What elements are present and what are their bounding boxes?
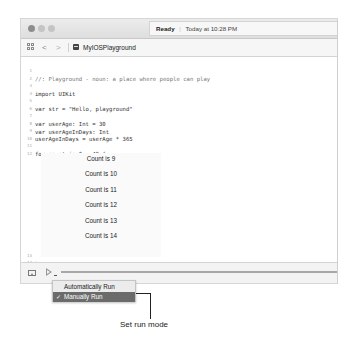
console-output-line: Count is 13 [41, 216, 161, 225]
zoom-window-button[interactable] [48, 25, 55, 32]
menu-item-label: Manually Run [64, 293, 103, 300]
close-window-button[interactable] [28, 25, 35, 32]
related-items-grid-icon[interactable] [27, 43, 35, 51]
toolbar-divider [68, 43, 69, 52]
show-debug-area-icon[interactable] [28, 270, 36, 276]
callout-label: Set run mode [120, 320, 168, 330]
checkmark-icon: ✓ [56, 292, 64, 302]
code-line: 14 [21, 251, 41, 259]
code-text: //: Playground - noun: a place where peo… [35, 75, 210, 83]
console-output-line: Count is 14 [41, 231, 161, 240]
code-editor[interactable]: 1 //: Playground - noun: a place where p… [21, 57, 337, 263]
code-text: var str = "Hello, playground" [35, 105, 133, 113]
back-chevron-icon[interactable]: < [42, 42, 47, 53]
status-timestamp: Today at 10:28 PM [186, 25, 238, 32]
console-output-line: Count is 11 [41, 185, 161, 194]
console-output-line: Count is 12 [41, 200, 161, 209]
breadcrumb-document-title[interactable]: MyIOSPlayground [83, 42, 136, 53]
inline-result-view: Count is 9 Count is 10 Count is 11 Count… [41, 153, 161, 257]
code-line: 12 print("Count is \(count)") [21, 142, 41, 150]
code-text: userAgeInDays = userAge * 365 [35, 135, 133, 143]
forward-chevron-icon[interactable]: > [56, 42, 61, 53]
run-mode-menu: Automatically Run ✓Manually Run [52, 280, 136, 302]
callout-leader-line [150, 293, 151, 319]
console-output-line: Count is 10 [41, 169, 161, 178]
playground-document-icon [73, 44, 79, 50]
minimize-window-button[interactable] [38, 25, 45, 32]
jump-bar: < > MyIOSPlayground [21, 39, 337, 57]
playground-window: Ready | Today at 10:28 PM < > MyIOSPlayg… [20, 18, 338, 284]
menu-item-manually-run[interactable]: ✓Manually Run [53, 292, 135, 302]
callout-leader-line [136, 293, 151, 294]
run-play-icon[interactable] [46, 268, 52, 276]
line-number: 12 [21, 150, 32, 158]
status-separator: | [179, 25, 181, 32]
status-state: Ready [156, 25, 175, 32]
title-bar: Ready | Today at 10:28 PM [21, 19, 337, 39]
execution-progress-track [61, 271, 337, 273]
menu-item-automatically-run[interactable]: Automatically Run [53, 282, 135, 292]
console-output-line: Count is 9 [41, 154, 161, 163]
activity-status-field: Ready | Today at 10:28 PM [149, 21, 337, 36]
menu-item-label: Automatically Run [64, 283, 115, 290]
run-mode-dropdown-caret-icon[interactable] [54, 275, 57, 276]
